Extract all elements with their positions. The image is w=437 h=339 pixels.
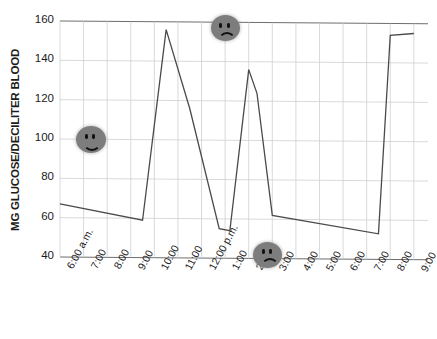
x-tick-8-00: 8:00 (394, 249, 414, 273)
happy-face-icon (76, 126, 106, 153)
x-tick-6-00: 6:00 (347, 249, 367, 273)
x-tick-1-00: 1:00 (229, 248, 249, 272)
face-eye-right (227, 23, 230, 28)
face-eye-right (269, 249, 272, 254)
face-eye-left (85, 134, 88, 139)
x-tick-4-00: 4:00 (300, 249, 320, 273)
x-tick-8-00: 8:00 (111, 247, 131, 271)
sad-face-icon (253, 242, 282, 268)
sad-face-icon (211, 15, 240, 41)
x-tick-7-00: 7:00 (88, 247, 108, 271)
x-tick-7-00: 7:00 (371, 249, 391, 273)
face-mouth (218, 32, 236, 44)
face-mouth (261, 258, 279, 270)
face-mouth (83, 139, 101, 151)
x-tick-5-00: 5:00 (323, 249, 343, 273)
face-eye-left (219, 23, 222, 28)
x-tick-10-00: 10:00 (158, 242, 181, 271)
x-tick-11-00: 11:00 (182, 243, 205, 271)
x-tick-9-00: 9:00 (135, 247, 155, 271)
x-tick-9-00: 9:00 (418, 250, 437, 274)
glucose-line-chart: MG GLUCOSE/DECILITER BLOOD 4060801001201… (0, 0, 437, 339)
face-eye-left (262, 249, 265, 254)
x-axis-tick-labels: 6:00 a.m.7:008:009:0010:0011:0012:00 p.m… (0, 0, 437, 339)
face-eye-right (92, 134, 95, 139)
